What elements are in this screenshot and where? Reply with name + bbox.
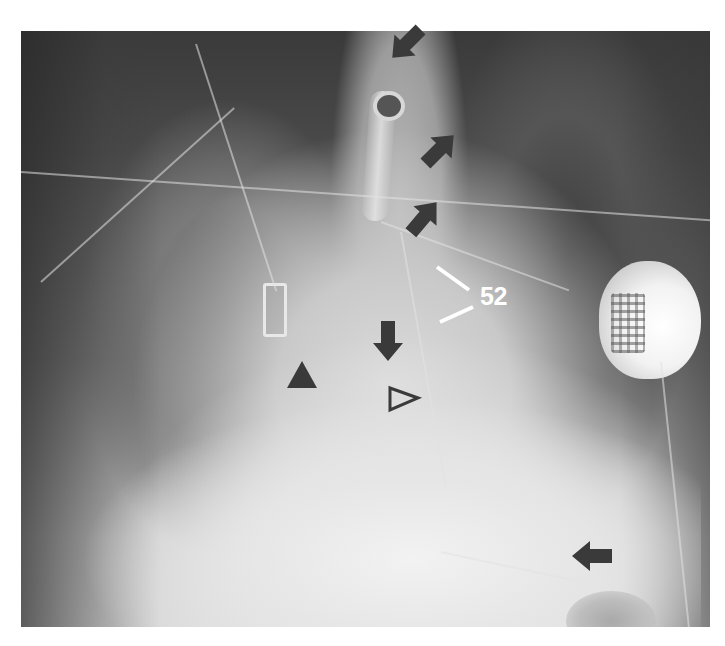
arrow-icon	[572, 541, 612, 571]
leader-line	[440, 307, 473, 322]
arrow-icon	[415, 125, 464, 174]
leader-line	[437, 267, 469, 290]
annotation-label: 52	[480, 284, 507, 309]
open-arrowhead-icon	[390, 388, 418, 410]
arrow-icon	[399, 193, 448, 243]
filled-arrowhead-icon	[287, 361, 317, 388]
arrow-icon	[382, 19, 431, 68]
annotation-layer	[0, 0, 725, 646]
arrow-icon	[373, 321, 403, 361]
